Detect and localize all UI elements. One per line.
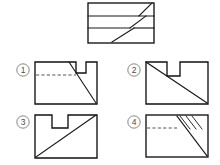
multiple-choice-figure-canvas: 1 2 3 4 [0, 0, 220, 165]
option-2-number: 2 [132, 65, 137, 75]
option-1[interactable]: 1 [17, 62, 97, 104]
option-3-number: 3 [21, 117, 26, 127]
option-4-number: 4 [132, 117, 137, 127]
reference-outline [88, 3, 154, 43]
option-4[interactable]: 4 [128, 115, 208, 157]
figure-root: 1 2 3 4 [0, 0, 220, 165]
option-3[interactable]: 3 [17, 115, 97, 158]
option-4-outline [146, 115, 208, 157]
option-1-number: 1 [21, 65, 26, 75]
option-2[interactable]: 2 [128, 62, 208, 104]
option-1-outline [35, 62, 97, 104]
top-reference-view [88, 3, 154, 43]
